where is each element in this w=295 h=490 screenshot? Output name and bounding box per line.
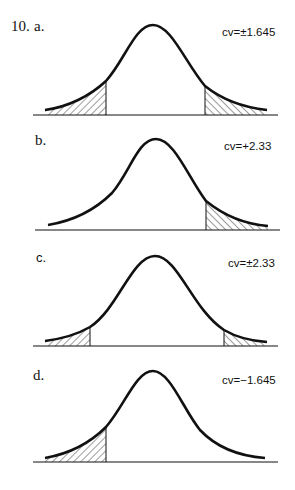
bell-curve <box>45 25 267 110</box>
bell-curve <box>45 256 267 342</box>
panel-a: 10. a. cv=±1.645 <box>0 0 295 125</box>
normal-curve-right-tailed <box>0 125 295 245</box>
panel-d: d. cv=−1.645 <box>0 365 295 490</box>
normal-curve-two-tailed <box>0 245 295 365</box>
bell-curve <box>48 139 268 226</box>
right-tail-region <box>205 86 267 115</box>
panel-c: c. cv=±2.33 <box>0 245 295 365</box>
normal-curve-two-tailed <box>0 0 295 125</box>
bell-curve <box>45 371 265 458</box>
panel-b: b. cv=+2.33 <box>0 125 295 245</box>
normal-curve-left-tailed <box>0 365 295 490</box>
left-tail-region <box>45 81 106 115</box>
